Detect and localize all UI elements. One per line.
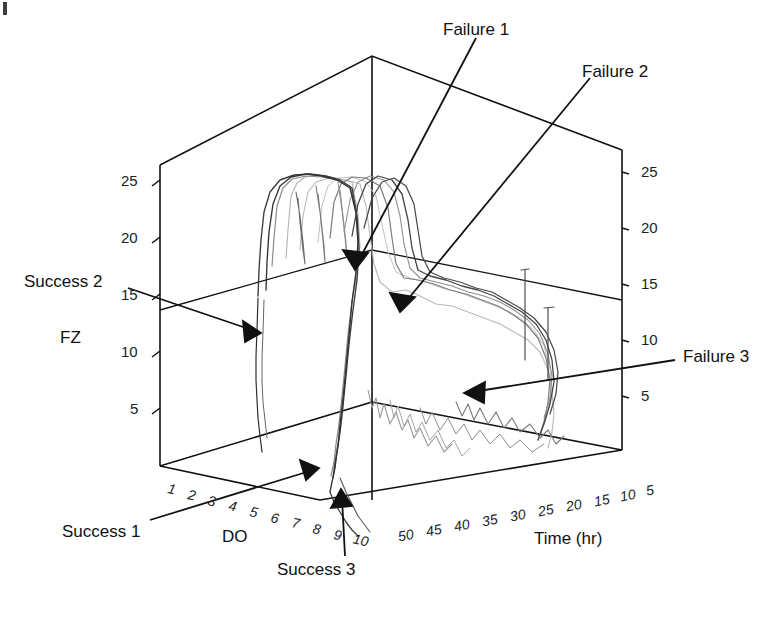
trace-success2-edge-b [262,300,267,438]
trace-dark-2 [266,174,358,478]
do-axis-title: DO [222,527,248,547]
success-2-leader [128,288,252,330]
time-tick-40: 40 [453,516,471,535]
failure-2-leader [404,78,590,304]
success-1-arrowhead [300,460,319,480]
fz-left-tick-15: 15 [121,286,138,303]
trace-light-2 [300,178,554,448]
success-2-arrowhead [243,321,261,342]
time-tick-25: 25 [537,501,555,520]
annotation-label-failure-1: Failure 1 [443,20,509,40]
time-tick-20: 20 [565,496,583,515]
failure-3-arrowhead [464,382,485,403]
trace-light-3 [318,177,552,428]
time-tick-15: 15 [593,491,611,510]
fz-right-tick-5: 5 [641,387,649,404]
trace-leaf-3 [338,182,347,258]
time-tick-10: 10 [619,486,637,505]
trace-mid-3 [344,176,552,418]
fz-left-tick-10: 10 [121,343,138,360]
fz-right-tick-20: 20 [641,219,658,236]
figure-canvas: 25 20 15 10 5 25 20 15 10 5 FZ 1 2 3 4 5… [0,0,776,619]
fz-left-tick-25: 25 [121,172,138,189]
time-tick-50: 50 [397,526,415,545]
trace-success2-edge [256,298,262,452]
fz-right-tick-15: 15 [641,275,658,292]
data-traces [256,174,564,536]
fz-axis-title: FZ [60,328,81,348]
fz-right-tick-marks [622,172,629,398]
annotation-label-failure-3: Failure 3 [683,347,749,367]
fz-left-tick-20: 20 [121,229,138,246]
trace-mid-1 [272,176,358,476]
fz-right-tick-25: 25 [641,163,658,180]
do-tick-10: 10 [352,531,371,550]
annotation-label-success-3: Success 3 [277,560,355,580]
fz-left-tick-5: 5 [130,400,138,417]
time-tick-45: 45 [425,521,443,540]
failure-1-arrowhead [343,250,368,270]
failure-1-leader [358,38,476,262]
fz-right-tick-10: 10 [641,331,658,348]
trace-leaf-1 [296,192,305,264]
trace-floor-centre-1 [368,390,452,452]
time-tick-35: 35 [481,511,499,530]
failure-2-arrowhead [390,293,415,312]
time-axis-title: Time (hr) [534,529,602,549]
annotation-label-success-1: Success 1 [62,522,140,542]
time-tick-30: 30 [509,506,527,525]
annotation-label-success-2: Success 2 [24,272,102,292]
annotation-leaders [128,38,675,556]
trace-floor-right-1 [456,402,564,444]
annotation-label-failure-2: Failure 2 [582,62,648,82]
